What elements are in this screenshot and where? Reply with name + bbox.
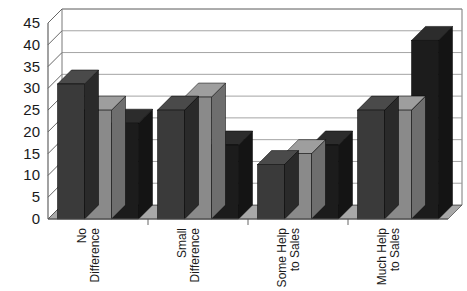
y-axis-tick-label: 30 bbox=[23, 79, 40, 96]
y-axis-tick-label: 25 bbox=[23, 101, 40, 118]
x-axis-category-label: to Sales bbox=[388, 228, 402, 271]
y-axis-tick-label: 40 bbox=[23, 36, 40, 53]
bar-front-face bbox=[358, 110, 385, 219]
y-axis-tick-label: 45 bbox=[23, 14, 40, 31]
bar bbox=[158, 96, 199, 219]
bar bbox=[58, 70, 99, 219]
y-axis-tick-label: 5 bbox=[32, 188, 40, 205]
bar-side-face bbox=[85, 70, 99, 219]
bar-side-face bbox=[339, 131, 353, 219]
x-axis-category-label: Much Help bbox=[375, 228, 389, 286]
x-axis-category-label: Small bbox=[175, 228, 189, 258]
bar-side-face bbox=[239, 131, 253, 219]
bar-side-face bbox=[385, 96, 399, 219]
bar-side-face bbox=[139, 109, 153, 219]
x-axis-category-label: Difference bbox=[188, 228, 202, 283]
y-axis-tick-label: 0 bbox=[32, 210, 40, 227]
bar bbox=[258, 151, 299, 219]
y-axis-tick-label: 15 bbox=[23, 145, 40, 162]
chart-canvas: 051015202530354045NoDifferenceSmallDiffe… bbox=[0, 0, 467, 291]
bar-front-face bbox=[258, 165, 285, 219]
bar-side-face bbox=[112, 96, 126, 219]
y-axis-tick-label: 10 bbox=[23, 166, 40, 183]
y-axis-ticks: 051015202530354045 bbox=[23, 9, 62, 227]
bar bbox=[358, 96, 399, 219]
bar-side-face bbox=[212, 83, 226, 219]
bar-side-face bbox=[185, 96, 199, 219]
x-axis-category-label: Difference bbox=[88, 228, 102, 283]
y-tick-mark bbox=[48, 53, 62, 67]
bar-front-face bbox=[158, 110, 185, 219]
bar-front-face bbox=[58, 84, 85, 219]
y-tick-mark bbox=[48, 9, 62, 23]
x-axis-category-labels: NoDifferenceSmallDifferenceSome Helpto S… bbox=[75, 228, 402, 288]
bar-side-face bbox=[412, 96, 426, 219]
y-tick-mark bbox=[48, 31, 62, 45]
x-axis-category-label: to Sales bbox=[288, 228, 302, 271]
x-axis-category-label: Some Help bbox=[275, 228, 289, 288]
x-axis-category-label: No bbox=[75, 228, 89, 244]
x-axis-category-separators bbox=[148, 219, 348, 225]
bar-chart-figure: 051015202530354045NoDifferenceSmallDiffe… bbox=[0, 0, 467, 291]
y-axis-tick-label: 35 bbox=[23, 58, 40, 75]
y-axis-tick-label: 20 bbox=[23, 123, 40, 140]
bar-side-face bbox=[439, 26, 453, 219]
